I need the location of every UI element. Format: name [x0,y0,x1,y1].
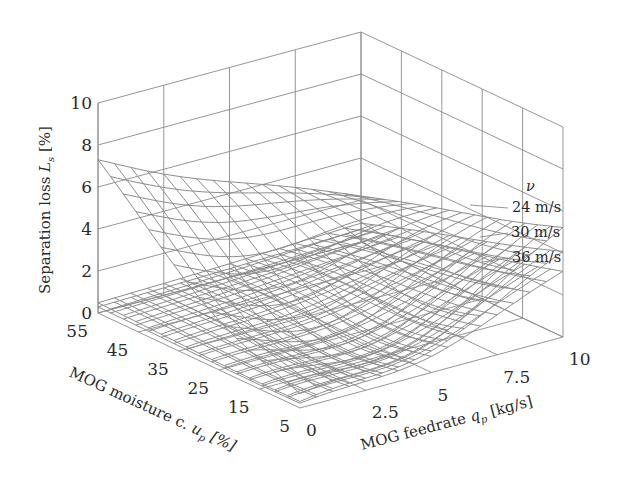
mesh-line [136,202,399,223]
legend-entry-30: 30 m/s [511,224,560,240]
y-tick-label: 15 [228,397,250,417]
legend-entry-36: 36 m/s [512,249,561,265]
x-tick-label: 0 [306,420,317,440]
legend-leader-24 [470,205,508,208]
legend-entry-24: 24 m/s [512,199,561,215]
mesh-line [111,225,374,309]
wall-gridline [361,116,563,211]
y-tick-label: 45 [107,340,129,360]
legend-title: ν [526,178,535,194]
x-tick-label: 5 [438,385,449,405]
x-tick-label: 2.5 [372,402,399,422]
y-tick-label: 5 [279,416,290,436]
y-tick-label: 25 [188,378,210,398]
wall-gridline [361,74,563,169]
z-tick-label: 8 [81,135,92,155]
z-axis-title: Separation loss Ls [%] [36,126,56,294]
surface-chart: 02468105545352515502.557.510 Separation … [0,0,620,477]
y-tick-label: 35 [147,359,169,379]
z-tick-label: 2 [81,261,92,281]
z-tick-label: 0 [81,303,92,323]
x-tick-label: 10 [569,349,591,369]
x-tick-label: 7.5 [503,367,530,387]
mesh-line [212,253,475,362]
z-tick-label: 6 [81,177,92,197]
mesh-line [111,177,374,198]
z-tick-label: 4 [81,219,92,239]
z-tick-label: 10 [70,93,92,113]
y-tick-label: 55 [66,321,88,341]
wall-gridline [361,32,563,127]
